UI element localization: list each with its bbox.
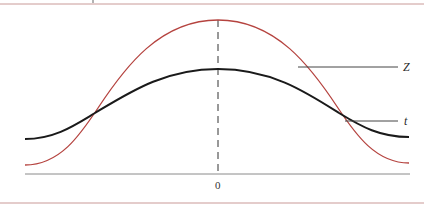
t-curve	[25, 69, 409, 139]
distribution-figure: Z t 0	[0, 0, 424, 205]
zero-tick-label: 0	[215, 179, 221, 191]
t-label: t	[404, 114, 408, 128]
z-curve	[25, 20, 409, 165]
z-label: Z	[403, 60, 410, 74]
chart-canvas: Z t 0	[0, 0, 424, 205]
